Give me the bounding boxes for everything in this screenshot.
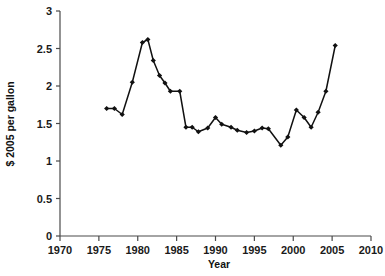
y-tick-label: 2 [46, 80, 52, 92]
y-tick-label: 0.5 [37, 193, 52, 205]
chart-background [0, 0, 385, 276]
y-axis-title: $ 2005 per gallon [4, 81, 16, 166]
gasoline-price-chart: 00.511.522.53 19701975198019851990199520… [0, 0, 385, 276]
y-tick-label: 2.5 [37, 43, 52, 55]
x-tick-label: 2005 [320, 244, 344, 256]
x-tick-label: 2010 [359, 244, 383, 256]
x-tick-label: 1990 [203, 244, 227, 256]
x-tick-label: 2000 [281, 244, 305, 256]
y-tick-label: 1 [46, 155, 52, 167]
x-axis-title: Year [208, 258, 230, 270]
x-tick-label: 1980 [126, 244, 150, 256]
x-tick-label: 1985 [164, 244, 188, 256]
y-tick-label: 3 [46, 5, 52, 17]
x-tick-label: 1995 [242, 244, 266, 256]
y-tick-label: 1.5 [37, 118, 52, 130]
chart-canvas: 00.511.522.53 19701975198019851990199520… [0, 0, 385, 276]
y-tick-label: 0 [46, 230, 52, 242]
x-tick-label: 1970 [48, 244, 72, 256]
x-tick-label: 1975 [87, 244, 111, 256]
